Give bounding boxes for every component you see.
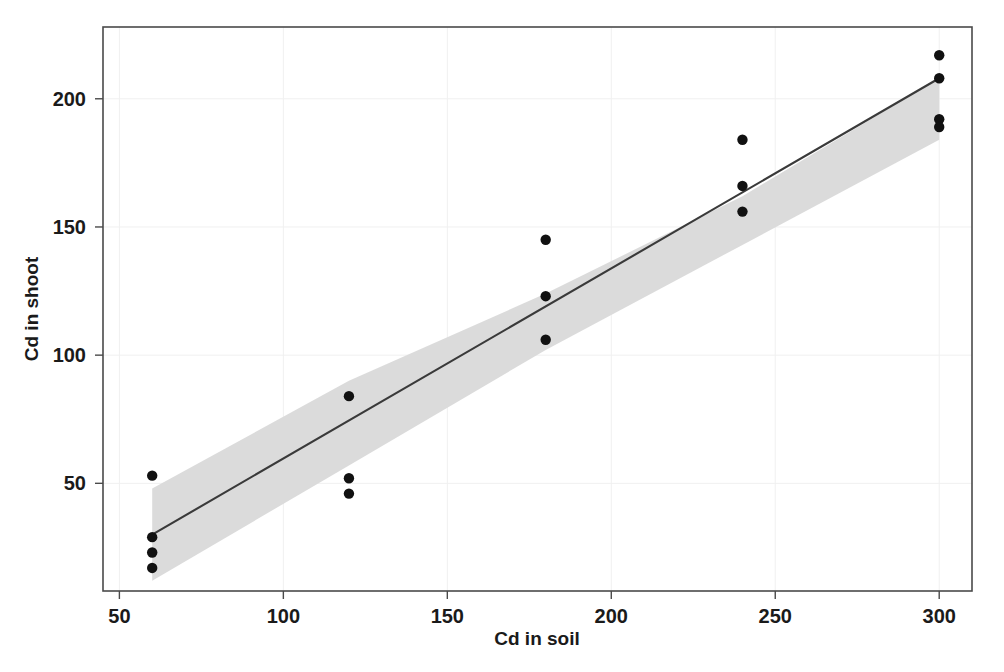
plot-canvas: 50100150200250300 50100150200 Cd in soil…	[0, 0, 1004, 672]
data-point	[934, 50, 944, 60]
x-tick-label: 100	[267, 605, 300, 627]
data-point	[737, 181, 747, 191]
scatter-plot-figure: 50100150200250300 50100150200 Cd in soil…	[0, 0, 1004, 672]
data-point	[344, 391, 354, 401]
y-tick-label: 150	[53, 216, 86, 238]
data-point	[147, 470, 157, 480]
x-tick-label: 250	[759, 605, 792, 627]
x-axis-title: Cd in soil	[494, 628, 580, 649]
y-tick-label: 50	[64, 472, 86, 494]
x-tick-label: 200	[595, 605, 628, 627]
data-point	[147, 547, 157, 557]
y-axis-title: Cd in shoot	[21, 256, 42, 361]
data-point	[540, 335, 550, 345]
data-point	[737, 135, 747, 145]
data-point	[540, 291, 550, 301]
y-tick-label: 200	[53, 88, 86, 110]
data-point	[934, 122, 944, 132]
data-point	[344, 473, 354, 483]
data-point	[934, 73, 944, 83]
x-tick-label: 50	[108, 605, 130, 627]
data-point	[540, 235, 550, 245]
data-point	[737, 206, 747, 216]
data-point	[147, 563, 157, 573]
x-tick-label: 150	[431, 605, 464, 627]
data-point	[344, 488, 354, 498]
y-tick-label: 100	[53, 344, 86, 366]
x-tick-label: 300	[923, 605, 956, 627]
data-point	[147, 532, 157, 542]
